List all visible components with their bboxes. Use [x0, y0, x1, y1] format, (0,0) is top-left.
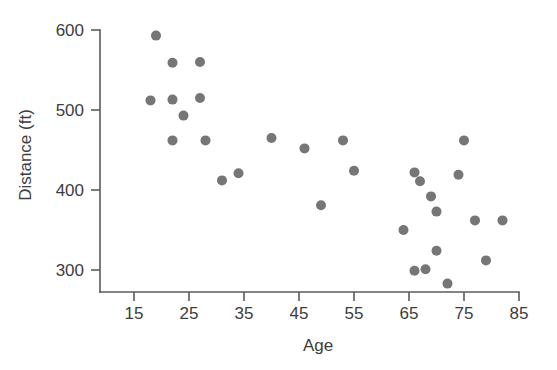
data-point: [459, 135, 469, 145]
data-point: [201, 135, 211, 145]
x-axis-title: Age: [303, 336, 333, 355]
x-tick-label: 15: [125, 304, 144, 323]
data-point: [168, 135, 178, 145]
data-point: [146, 95, 156, 105]
x-tick-label: 75: [455, 304, 474, 323]
data-point: [415, 176, 425, 186]
data-point: [349, 166, 359, 176]
data-point: [454, 170, 464, 180]
data-point: [481, 255, 491, 265]
data-point: [421, 264, 431, 274]
y-tick-label: 600: [56, 21, 84, 40]
data-point: [443, 279, 453, 289]
data-point: [168, 58, 178, 68]
x-tick-label: 85: [510, 304, 529, 323]
data-point: [426, 191, 436, 201]
scatter-plot-figure: 300400500600 1525354555657585 Age Distan…: [0, 0, 557, 370]
x-tick-label: 45: [290, 304, 309, 323]
data-point: [195, 57, 205, 67]
data-point: [179, 111, 189, 121]
y-axis-ticks: 300400500600: [56, 21, 100, 280]
x-tick-label: 35: [235, 304, 254, 323]
x-tick-label: 25: [180, 304, 199, 323]
data-point: [234, 168, 244, 178]
data-point: [168, 95, 178, 105]
y-tick-label: 500: [56, 101, 84, 120]
data-point: [338, 135, 348, 145]
plot-canvas: 300400500600 1525354555657585 Age Distan…: [0, 0, 557, 370]
data-points-group: [146, 31, 508, 289]
data-point: [470, 215, 480, 225]
data-point: [432, 207, 442, 217]
y-tick-label: 400: [56, 181, 84, 200]
data-point: [217, 175, 227, 185]
y-axis-title: Distance (ft): [16, 109, 35, 201]
data-point: [399, 225, 409, 235]
x-axis-ticks: 1525354555657585: [125, 292, 529, 323]
axes-group: [100, 30, 519, 292]
data-point: [410, 167, 420, 177]
data-point: [316, 200, 326, 210]
data-point: [267, 133, 277, 143]
x-tick-label: 55: [345, 304, 364, 323]
data-point: [498, 215, 508, 225]
data-point: [151, 31, 161, 41]
data-point: [195, 93, 205, 103]
data-point: [410, 266, 420, 276]
data-point: [432, 246, 442, 256]
data-point: [300, 143, 310, 153]
y-tick-label: 300: [56, 261, 84, 280]
x-tick-label: 65: [400, 304, 419, 323]
